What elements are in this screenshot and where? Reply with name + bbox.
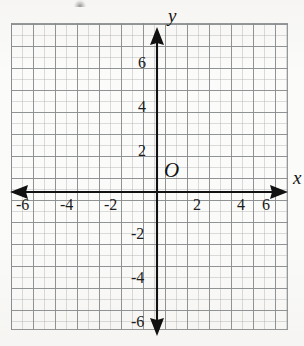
x-tick-label-4: 4 — [237, 197, 245, 213]
x-tick-label--2: -2 — [104, 197, 117, 213]
y-tick-label-4: 4 — [138, 99, 146, 115]
x-tick-label--6: -6 — [16, 197, 29, 213]
y-axis-down-arrowhead — [150, 318, 164, 336]
x-tick-label-6: 6 — [262, 197, 270, 213]
origin-label: O — [164, 160, 179, 181]
y-tick-label-6: 6 — [138, 55, 146, 71]
x-axis-right-arrowhead — [270, 185, 288, 199]
y-axis-up-arrowhead — [150, 27, 164, 45]
axes-layer — [0, 0, 304, 346]
x-axis-label: x — [293, 168, 301, 187]
y-axis-label: y — [168, 6, 176, 25]
x-tick-label-2: 2 — [193, 197, 201, 213]
y-tick-label--2: -2 — [131, 226, 144, 242]
y-tick-label-2: 2 — [138, 143, 146, 159]
coordinate-plane-figure: O y x -6 -4 -2 2 4 6 6 4 2 -2 -4 -6 — [0, 0, 304, 346]
x-tick-label--4: -4 — [60, 197, 73, 213]
y-tick-label--6: -6 — [131, 314, 144, 330]
y-tick-label--4: -4 — [131, 270, 144, 286]
